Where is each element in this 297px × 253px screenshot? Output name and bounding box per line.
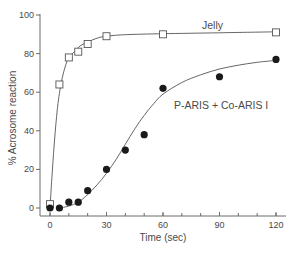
jelly-fit-curve	[50, 32, 276, 208]
p-aris-circle-marker	[46, 204, 53, 211]
jelly-square-marker	[75, 48, 82, 55]
y-tick-label: 20	[24, 164, 34, 174]
jelly-square-marker	[103, 33, 110, 40]
jelly-square-marker	[273, 29, 280, 36]
p-aris-circle-marker	[65, 199, 72, 206]
x-axis-title: Time (sec)	[140, 232, 187, 243]
p-aris-circle-marker	[75, 199, 82, 206]
jelly-square-marker	[65, 54, 72, 61]
y-ticks: 020406080100	[19, 10, 40, 213]
p-aris-circle-marker	[216, 73, 223, 80]
p-aris-circle-marker	[84, 187, 91, 194]
p-aris-circle-marker	[141, 131, 148, 138]
x-ticks: 0306090120	[47, 212, 283, 230]
series-p-aris-co-aris	[46, 56, 279, 212]
jelly-square-marker	[84, 40, 91, 47]
x-tick-label: 90	[214, 220, 224, 230]
x-tick-label: 120	[268, 220, 283, 230]
acrosome-reaction-chart: 020406080100 0306090120 % Acrosome react…	[0, 0, 297, 253]
jelly-series-label: Jelly	[202, 19, 224, 31]
jelly-square-marker	[160, 31, 167, 38]
p-aris-circle-marker	[56, 204, 63, 211]
y-tick-label: 60	[24, 87, 34, 97]
p-aris-fit-curve	[59, 60, 276, 208]
x-tick-label: 0	[47, 220, 52, 230]
x-tick-label: 30	[101, 220, 111, 230]
p-aris-series-label: P-ARIS + Co-ARIS I	[174, 99, 268, 111]
x-tick-label: 60	[158, 220, 168, 230]
p-aris-circle-marker	[159, 85, 166, 92]
jelly-data-points	[47, 29, 280, 208]
y-axis-title: % Acrosome reaction	[7, 71, 18, 166]
p-aris-circle-marker	[103, 166, 110, 173]
axes: 020406080100 0306090120	[19, 10, 286, 230]
y-tick-label: 100	[19, 10, 34, 20]
y-tick-label: 0	[29, 203, 34, 213]
y-tick-label: 40	[24, 126, 34, 136]
y-tick-label: 80	[24, 49, 34, 59]
p-aris-data-points	[46, 56, 279, 212]
p-aris-circle-marker	[272, 56, 279, 63]
p-aris-circle-marker	[122, 147, 129, 154]
series-jelly	[47, 29, 280, 208]
jelly-square-marker	[56, 81, 63, 88]
